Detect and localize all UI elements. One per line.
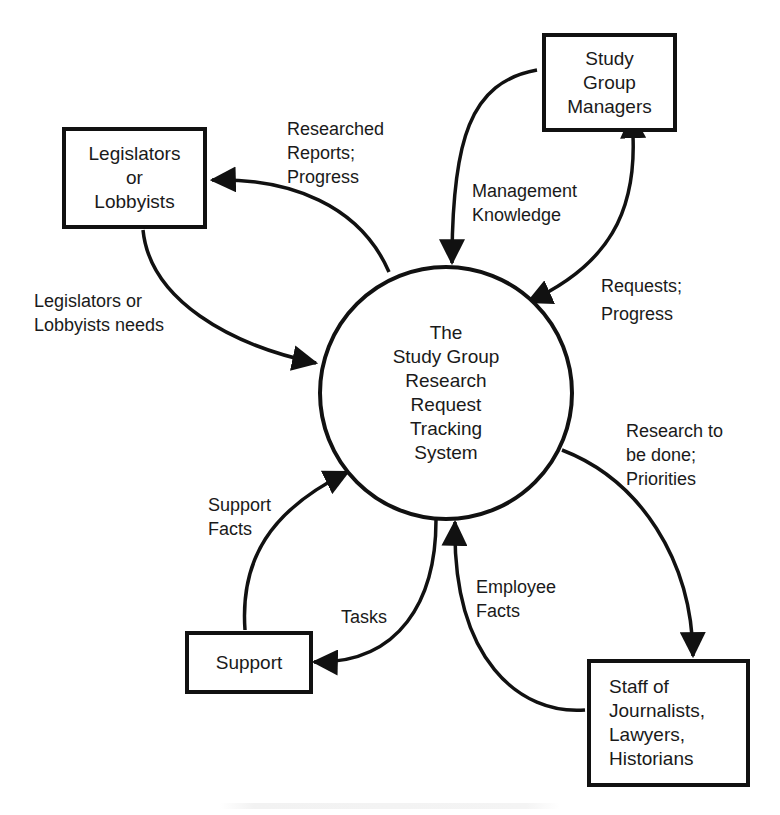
entity-support: Support	[185, 631, 313, 694]
flow-label-researched-reports: Researched Reports; Progress	[287, 117, 384, 189]
entity-staff-journalists-lawyers-historians: Staff of Journalists, Lawyers, Historian…	[587, 659, 750, 787]
flow-label-requests-progress: Requests; Progress	[601, 272, 682, 328]
entity-label-line: Group	[583, 71, 636, 95]
flow-label-line: Requests;	[601, 272, 682, 300]
process-label-line: System	[414, 441, 477, 465]
flow-label-research-to-be-done: Research to be done; Priorities	[626, 419, 723, 491]
flow-label-line: Progress	[601, 300, 682, 328]
entity-label-line: Lobbyists	[94, 190, 174, 214]
entity-label-line: Historians	[609, 747, 693, 771]
flow-arrow-legislators-needs	[143, 230, 316, 363]
entity-label-line: Study	[585, 47, 634, 71]
entity-label-line: Managers	[567, 95, 652, 119]
flow-label-line: Facts	[476, 599, 556, 623]
flow-arrow-tasks	[314, 520, 436, 662]
flow-label-line: Lobbyists needs	[34, 313, 164, 337]
process-label-line: The	[430, 321, 463, 345]
entity-legislators-or-lobbyists: Legislators or Lobbyists	[62, 127, 207, 229]
entity-label-line: Lawyers,	[609, 723, 685, 747]
process-label-line: Tracking	[410, 417, 482, 441]
entity-label-line: Legislators	[89, 142, 181, 166]
figure-caption	[220, 803, 560, 809]
process-label-line: Study Group	[393, 345, 500, 369]
flow-label-line: Tasks	[341, 605, 387, 629]
flow-label-line: Progress	[287, 165, 384, 189]
flow-label-line: Priorities	[626, 467, 723, 491]
process-label-line: Research	[405, 369, 486, 393]
flow-label-management-knowledge: Management Knowledge	[472, 179, 577, 227]
flow-label-line: Researched	[287, 117, 384, 141]
entity-study-group-managers: Study Group Managers	[542, 33, 677, 132]
flow-label-line: Research to	[626, 419, 723, 443]
process-label-line: Request	[411, 393, 482, 417]
flow-label-line: Knowledge	[472, 203, 577, 227]
flow-label-line: Legislators or	[34, 289, 164, 313]
central-process-bubble: The Study Group Research Request Trackin…	[318, 265, 574, 521]
flow-label-support-facts: Support Facts	[208, 493, 271, 541]
flow-label-legislators-needs: Legislators or Lobbyists needs	[34, 289, 164, 337]
flow-label-line: Reports;	[287, 141, 384, 165]
flow-label-line: Management	[472, 179, 577, 203]
flow-label-line: Facts	[208, 517, 271, 541]
entity-label-line: Support	[216, 651, 283, 675]
entity-label-line: Staff of	[609, 675, 669, 699]
flow-arrow-researched-reports	[212, 180, 389, 272]
flow-label-line: Support	[208, 493, 271, 517]
flow-label-employee-facts: Employee Facts	[476, 575, 556, 623]
flow-label-line: be done;	[626, 443, 723, 467]
flow-arrow-management-knowledge	[452, 70, 537, 263]
entity-label-line: or	[126, 166, 143, 190]
flow-label-line: Employee	[476, 575, 556, 599]
entity-label-line: Journalists,	[609, 699, 705, 723]
flow-label-tasks: Tasks	[341, 605, 387, 629]
